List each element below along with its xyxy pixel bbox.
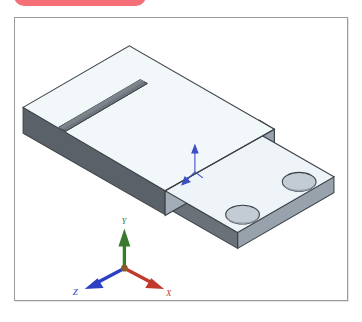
solution-banner: Solution: [14, 0, 146, 6]
triad-axis-z: Z: [73, 268, 125, 297]
triad-label-z: Z: [73, 287, 79, 297]
stepped-bracket-solid: [23, 46, 334, 249]
triad-label-x: X: [165, 288, 172, 298]
hole-rear: [282, 172, 316, 191]
coordinate-triad: Y Z X: [73, 216, 172, 298]
triad-label-y: Y: [121, 216, 127, 226]
cad-model-viewport[interactable]: Y Z X: [14, 17, 348, 301]
triad-axis-x: X: [124, 268, 172, 298]
triad-axis-y: Y: [118, 216, 130, 269]
solution-banner-label: Solution: [31, 0, 69, 1]
hole-front: [226, 205, 260, 224]
triad-origin-hub: [121, 265, 128, 272]
isometric-model-drawing: Y Z X: [15, 18, 347, 300]
